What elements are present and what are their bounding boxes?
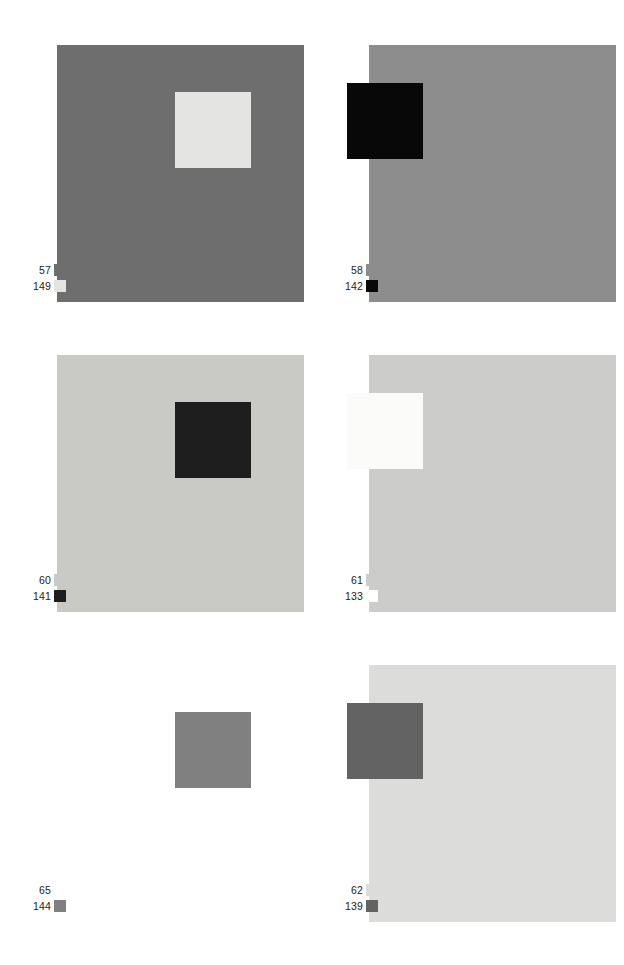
plate-6-patch-value: 139 [345, 901, 366, 912]
plate-4-field-swatch-icon [366, 574, 378, 586]
plate-3-patch-swatch-icon [54, 590, 66, 602]
plate-3-legend-patch: 141 [18, 588, 66, 604]
plate-3-field-swatch-icon [54, 574, 66, 586]
plate-3-field-value: 60 [39, 575, 54, 586]
plate-2-patch [347, 83, 423, 159]
plate-6-legend-patch: 139 [330, 898, 378, 914]
plate-5-legend-field: 65 [18, 882, 66, 898]
plate-1-legend-field: 57 [18, 262, 66, 278]
plate-5-patch-swatch-icon [54, 900, 66, 912]
plate-3-legend: 60 141 [18, 572, 66, 604]
plate-5-field [57, 665, 304, 922]
plate-2: 58 142 [312, 0, 624, 312]
plate-2-legend: 58 142 [330, 262, 378, 294]
plate-2-field-value: 58 [351, 265, 366, 276]
plate-5: 65 144 [0, 620, 312, 932]
plate-6-legend-field: 62 [330, 882, 378, 898]
plate-4-legend-patch: 133 [330, 588, 378, 604]
plate-4-patch-value: 133 [345, 591, 366, 602]
plate-1-field [57, 45, 304, 302]
plate-5-patch [175, 712, 251, 788]
plate-3: 60 141 [0, 310, 312, 622]
plate-2-legend-field: 58 [330, 262, 378, 278]
plate-5-legend-patch: 144 [18, 898, 66, 914]
plate-4: 61 133 [312, 310, 624, 622]
plate-2-field-swatch-icon [366, 264, 378, 276]
plate-1-legend-patch: 149 [18, 278, 66, 294]
plate-2-legend-patch: 142 [330, 278, 378, 294]
plate-1-field-value: 57 [39, 265, 54, 276]
plate-4-field-value: 61 [351, 575, 366, 586]
plate-3-patch [175, 402, 251, 478]
plate-2-patch-swatch-icon [366, 280, 378, 292]
plate-6-patch-swatch-icon [366, 900, 378, 912]
plate-5-legend: 65 144 [18, 882, 66, 914]
plate-1-patch-swatch-icon [54, 280, 66, 292]
plate-6-field-value: 62 [351, 885, 366, 896]
contrast-plate-figure: 57 149 58 142 60 [0, 0, 624, 965]
plate-1: 57 149 [0, 0, 312, 312]
plate-4-legend: 61 133 [330, 572, 378, 604]
plate-2-patch-value: 142 [345, 281, 366, 292]
plate-6: 62 139 [312, 620, 624, 932]
plate-3-patch-value: 141 [33, 591, 54, 602]
plate-3-field [57, 355, 304, 612]
plate-1-field-swatch-icon [54, 264, 66, 276]
plate-1-patch [175, 92, 251, 168]
plate-4-patch-swatch-icon [366, 590, 378, 602]
plate-6-patch [347, 703, 423, 779]
plate-1-patch-value: 149 [33, 281, 54, 292]
plate-6-field-swatch-icon [366, 884, 378, 896]
plate-5-field-swatch-icon [54, 884, 66, 896]
plate-4-patch [347, 393, 423, 469]
plate-4-legend-field: 61 [330, 572, 378, 588]
plate-5-field-value: 65 [39, 885, 54, 896]
plate-5-patch-value: 144 [33, 901, 54, 912]
plate-3-legend-field: 60 [18, 572, 66, 588]
plate-1-legend: 57 149 [18, 262, 66, 294]
plate-6-legend: 62 139 [330, 882, 378, 914]
